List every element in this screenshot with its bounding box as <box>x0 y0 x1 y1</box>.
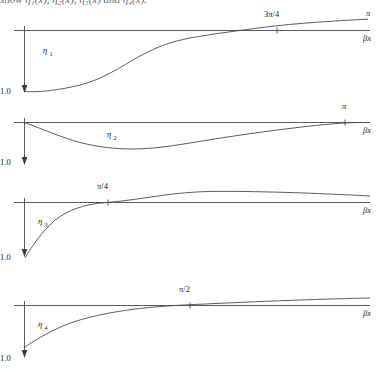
panel4-x-axis-label: βx <box>362 308 371 318</box>
panel3-x-axis-label: βx <box>362 205 371 215</box>
panel2-x-axis-label: βx <box>362 125 371 135</box>
figure-container: show η₁(x), η₂(x), η₃(x) and η₄(x). 1.0 … <box>0 0 384 373</box>
panel3-curve <box>25 191 370 258</box>
panel1-curve-label: η <box>43 45 47 55</box>
panel3-tick-label-pi4: π/4 <box>97 181 109 191</box>
panel1-end-tick-label: π <box>366 8 371 18</box>
panel2-end-tick-label: π <box>342 101 347 111</box>
panel1-tick-label-3pi4: 3π/4 <box>264 9 280 19</box>
panel4-baseline-label: 1.0 <box>0 353 11 363</box>
panel4-tick-label-pi2: π/2 <box>179 284 190 294</box>
panel2-y-arrowhead <box>22 157 28 165</box>
panel4-curve-label: η <box>38 319 42 329</box>
panel-eta4: 1.0 η 4 π/2 βx <box>0 275 384 373</box>
panel3-baseline-label: 1.0 <box>0 252 11 262</box>
panel2-baseline-label: 1.0 <box>0 157 11 167</box>
panel2-curve-index: 2 <box>114 135 117 141</box>
panel2-curve <box>25 123 371 150</box>
panel4-y-arrowhead <box>22 350 28 358</box>
panel2-curve-label: η <box>107 129 111 139</box>
panel3-curve-label: η <box>38 216 42 226</box>
panel3-curve-index: 3 <box>45 222 48 228</box>
panel4-curve-index: 4 <box>45 325 48 331</box>
panel1-curve-index: 1 <box>50 51 53 57</box>
panel-eta3: 1.0 η 3 π/4 βx <box>0 172 384 272</box>
panel1-x-axis-label: βx <box>362 33 371 43</box>
panel-eta1: 1.0 η 1 3π/4 π βx <box>0 0 384 100</box>
